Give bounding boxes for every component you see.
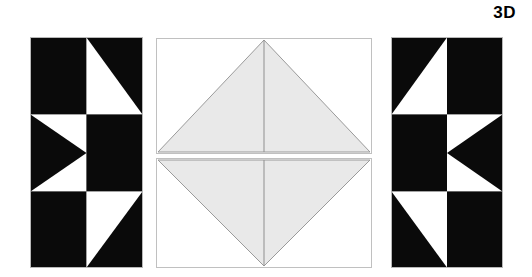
left-cell-r0c0-solid-black [31, 38, 87, 115]
figure-root: 3D [0, 0, 532, 277]
right-cell-r2c1-solid-black [447, 192, 503, 268]
right-cell-r0c1-solid-black [447, 38, 503, 115]
left-pattern-panel [30, 37, 143, 268]
center-top-panel [156, 38, 372, 154]
center-bottom-panel [156, 158, 372, 268]
left-cell-r1c1-solid-black [87, 115, 143, 192]
right-cell-r1c0-solid-black [392, 115, 448, 192]
left-cell-r2c0-solid-black [31, 192, 87, 268]
right-pattern-panel [391, 37, 503, 268]
3d-corner-label: 3D [493, 4, 516, 21]
